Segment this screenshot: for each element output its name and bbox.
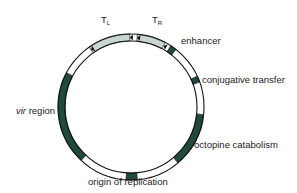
vir-region-label: vir region xyxy=(16,106,55,116)
vir-italic: vir xyxy=(16,105,26,116)
plasmid-map xyxy=(0,0,297,193)
ring-outline xyxy=(65,41,197,173)
tr-label-sub: R xyxy=(158,20,162,26)
conjugative-transfer-label: conjugative transfer xyxy=(202,75,285,85)
vir-rest: region xyxy=(26,105,55,116)
tl-label-sub: L xyxy=(107,20,110,26)
segment-vir-region xyxy=(58,73,86,161)
tl-label: TL xyxy=(101,15,110,26)
octopine-catabolism-label: octopine catabolism xyxy=(194,140,278,150)
tr-label: TR xyxy=(152,15,162,26)
origin-of-replication-label: origin of replication xyxy=(88,177,168,187)
enhancer-label: enhancer xyxy=(181,36,221,46)
